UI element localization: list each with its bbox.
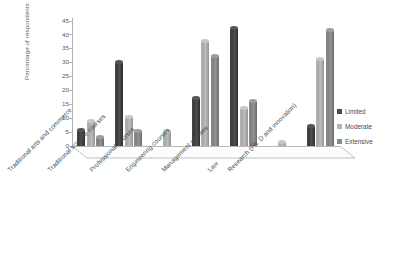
bar-body xyxy=(87,122,95,146)
bar-cap xyxy=(240,106,248,110)
bar-limited xyxy=(77,128,85,146)
bar-body xyxy=(134,132,142,146)
bar-group xyxy=(192,21,230,146)
bar-chart: Percentage of respondents 05101520253035… xyxy=(0,0,403,259)
bar-body xyxy=(316,60,324,146)
bar-moderate xyxy=(240,106,248,147)
y-tick-label: 35 xyxy=(62,44,69,51)
bar-limited xyxy=(115,60,123,146)
y-tick-label: 10 xyxy=(62,114,69,121)
legend-label: Extensive xyxy=(345,138,373,145)
bar-cap xyxy=(316,57,324,61)
bar-moderate xyxy=(316,57,324,146)
legend-label: Limited xyxy=(345,108,366,115)
bar-body xyxy=(307,127,315,146)
bar-group xyxy=(230,21,268,146)
bar-cap xyxy=(115,60,123,64)
bar-extensive xyxy=(211,54,219,146)
bar-moderate xyxy=(87,119,95,146)
bar-group xyxy=(154,21,192,146)
bar-moderate xyxy=(163,129,171,146)
legend-label: Moderate xyxy=(345,123,372,130)
bar-extensive xyxy=(96,135,104,146)
bar-limited xyxy=(192,96,200,146)
y-tick-label: 40 xyxy=(62,31,69,38)
bar-body xyxy=(326,31,334,146)
y-axis-title: Percentage of respondents xyxy=(23,0,30,102)
bar-extensive xyxy=(249,99,257,146)
bar-body xyxy=(201,42,209,146)
bar-cap xyxy=(96,135,104,139)
y-tick-label: 30 xyxy=(62,58,69,65)
bar-cap xyxy=(307,124,315,128)
bar-body xyxy=(163,132,171,146)
bar-body xyxy=(77,131,85,146)
legend-swatch-icon xyxy=(337,109,342,114)
plot-area: 051015202530354045 xyxy=(72,21,340,146)
bar-body xyxy=(230,29,238,146)
legend-item-moderate[interactable]: Moderate xyxy=(337,119,373,134)
bar-group xyxy=(115,21,153,146)
legend-swatch-icon xyxy=(337,124,342,129)
bar-groups xyxy=(72,21,340,146)
bar-cap xyxy=(326,28,334,32)
y-tick-label: 20 xyxy=(62,86,69,93)
bar-cap xyxy=(249,99,257,103)
bar-body xyxy=(125,118,133,146)
legend-swatch-icon xyxy=(337,139,342,144)
y-tick-label: 15 xyxy=(62,100,69,107)
bar-moderate xyxy=(278,140,286,146)
bar-group xyxy=(77,21,115,146)
bar-cap xyxy=(77,128,85,132)
chart-legend: LimitedModerateExtensive xyxy=(337,104,373,149)
bar-body xyxy=(249,102,257,146)
bar-body xyxy=(240,109,248,147)
y-tick-label: 25 xyxy=(62,72,69,79)
bar-moderate xyxy=(125,115,133,146)
bar-extensive xyxy=(134,129,142,146)
bar-cap xyxy=(192,96,200,100)
bar-moderate xyxy=(201,39,209,146)
bar-body xyxy=(115,63,123,146)
bar-limited xyxy=(307,124,315,146)
bar-body xyxy=(192,99,200,146)
x-axis-label: Law xyxy=(206,160,219,173)
bar-body xyxy=(96,138,104,146)
bar-cap xyxy=(201,39,209,43)
legend-item-extensive[interactable]: Extensive xyxy=(337,134,373,149)
legend-item-limited[interactable]: Limited xyxy=(337,104,373,119)
bar-limited xyxy=(230,26,238,146)
y-tick-label: 45 xyxy=(62,17,69,24)
chart-floor xyxy=(72,146,355,159)
bar-group xyxy=(268,21,306,146)
bar-body xyxy=(211,57,219,146)
bar-extensive xyxy=(326,28,334,146)
